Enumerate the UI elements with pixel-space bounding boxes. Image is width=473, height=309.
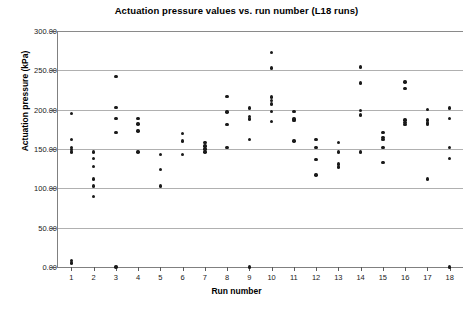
- data-point: [225, 146, 228, 149]
- data-point: [248, 265, 251, 268]
- data-point: [114, 106, 117, 109]
- x-tick: [71, 267, 72, 271]
- x-tick: [183, 267, 184, 271]
- x-tick: [294, 267, 295, 271]
- scatter-chart: Actuation pressure values vs. run number…: [0, 0, 473, 309]
- x-tick-label: 6: [172, 273, 194, 282]
- x-tick: [405, 267, 406, 271]
- y-gridline: [58, 188, 463, 189]
- data-point: [225, 95, 228, 98]
- y-tick: [50, 149, 56, 150]
- data-point: [248, 106, 251, 109]
- data-point: [426, 123, 429, 126]
- data-point: [381, 146, 384, 149]
- data-point: [159, 153, 162, 156]
- data-point: [70, 261, 73, 264]
- x-tick-label: 16: [394, 273, 416, 282]
- data-point: [136, 129, 139, 132]
- data-point: [270, 66, 273, 69]
- data-point: [225, 110, 228, 113]
- data-point: [292, 139, 295, 142]
- x-tick: [205, 267, 206, 271]
- y-gridline: [58, 110, 463, 111]
- x-tick-label: 14: [350, 273, 372, 282]
- y-axis-title: Actuation pressure (kPa): [20, 21, 30, 181]
- x-tick-label: 7: [194, 273, 216, 282]
- data-point: [181, 132, 184, 135]
- data-point: [426, 108, 429, 111]
- data-point: [359, 109, 362, 112]
- data-point: [92, 150, 95, 153]
- data-point: [70, 138, 73, 141]
- x-tick-label: 9: [238, 273, 260, 282]
- data-point: [314, 173, 317, 176]
- x-axis-title: Run number: [0, 286, 473, 296]
- x-tick: [94, 267, 95, 271]
- data-point: [448, 157, 451, 160]
- y-tick: [50, 188, 56, 189]
- y-gridline: [58, 228, 463, 229]
- x-tick: [361, 267, 362, 271]
- data-point: [292, 110, 295, 113]
- data-point: [114, 75, 117, 78]
- data-point: [270, 99, 273, 102]
- data-point: [403, 123, 406, 126]
- data-point: [337, 150, 340, 153]
- x-tick-label: 13: [327, 273, 349, 282]
- y-gridline: [58, 149, 463, 150]
- data-point: [381, 161, 384, 164]
- data-point: [381, 138, 384, 141]
- data-point: [270, 51, 273, 54]
- x-tick: [227, 267, 228, 271]
- x-tick-label: 4: [127, 273, 149, 282]
- data-point: [181, 153, 184, 156]
- x-tick: [383, 267, 384, 271]
- data-point: [181, 139, 184, 142]
- data-point: [136, 150, 139, 153]
- x-tick-label: 12: [305, 273, 327, 282]
- data-point: [248, 138, 251, 141]
- data-point: [337, 141, 340, 144]
- data-point: [292, 119, 295, 122]
- data-point: [203, 150, 206, 153]
- data-point: [270, 120, 273, 123]
- data-point: [314, 138, 317, 141]
- y-tick: [50, 31, 56, 32]
- data-point: [314, 158, 317, 161]
- x-tick-label: 1: [60, 273, 82, 282]
- data-point: [359, 65, 362, 68]
- chart-title: Actuation pressure values vs. run number…: [0, 5, 473, 16]
- data-point: [426, 177, 429, 180]
- data-point: [114, 265, 117, 268]
- data-point: [359, 113, 362, 116]
- data-point: [92, 195, 95, 198]
- data-point: [92, 157, 95, 160]
- data-point: [403, 80, 406, 83]
- x-tick: [138, 267, 139, 271]
- x-tick-label: 17: [416, 273, 438, 282]
- data-point: [136, 117, 139, 120]
- x-tick-label: 2: [83, 273, 105, 282]
- data-point: [381, 131, 384, 134]
- data-point: [314, 146, 317, 149]
- data-point: [70, 112, 73, 115]
- data-point: [337, 165, 340, 168]
- data-point: [92, 184, 95, 187]
- y-tick: [50, 70, 56, 71]
- data-point: [92, 165, 95, 168]
- x-tick-label: 10: [261, 273, 283, 282]
- x-tick-label: 5: [149, 273, 171, 282]
- x-tick-label: 15: [372, 273, 394, 282]
- data-point: [92, 177, 95, 180]
- data-point: [70, 150, 73, 153]
- x-tick: [338, 267, 339, 271]
- x-tick: [427, 267, 428, 271]
- plot-area: 123456789101112131415161718: [57, 31, 463, 268]
- y-tick: [50, 228, 56, 229]
- x-tick-label: 3: [105, 273, 127, 282]
- data-point: [359, 150, 362, 153]
- data-point: [248, 117, 251, 120]
- data-point: [270, 110, 273, 113]
- data-point: [270, 102, 273, 105]
- data-point: [225, 123, 228, 126]
